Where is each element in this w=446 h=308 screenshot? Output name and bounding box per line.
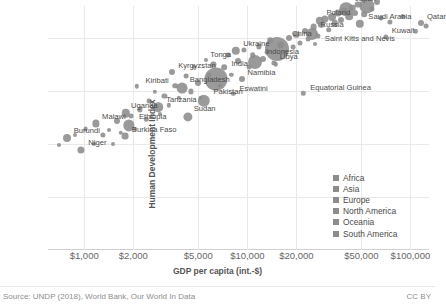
legend: AfricaAsiaEuropeNorth AmericaOceaniaSout… — [333, 172, 397, 239]
legend-swatch-icon — [333, 208, 339, 214]
data-point-label: Kiribati — [146, 76, 169, 85]
x-tick-label: $1,000 — [70, 250, 99, 261]
data-point-unlabeled[interactable] — [183, 74, 188, 79]
data-point-label: Namibia — [248, 67, 276, 76]
data-point-label: Malawi — [102, 111, 126, 120]
data-point[interactable] — [169, 69, 175, 75]
data-point-label: Kyrgyzstan — [178, 60, 216, 69]
x-tick-label: $20,000 — [279, 250, 313, 261]
legend-label: South America — [343, 229, 397, 239]
legend-label: Europe — [343, 195, 370, 205]
data-point-label: Pakistan — [213, 86, 242, 95]
data-point-label: Equatorial Guinea — [310, 83, 371, 92]
data-point[interactable] — [418, 20, 424, 26]
data-point-label: Tanzania — [166, 94, 196, 103]
data-point-unlabeled[interactable] — [167, 103, 171, 107]
data-point[interactable] — [177, 83, 188, 94]
legend-item[interactable]: South America — [333, 228, 397, 239]
data-point[interactable] — [135, 84, 139, 88]
x-tick-label: $10,000 — [230, 250, 264, 261]
data-point-unlabeled[interactable] — [241, 47, 246, 52]
legend-item[interactable]: Oceania — [333, 217, 397, 228]
source-note: Source: UNDP (2018), World Bank, Our Wor… — [3, 292, 195, 301]
data-point[interactable] — [313, 42, 317, 46]
legend-swatch-icon — [333, 197, 339, 203]
data-point-label: Bangladesh — [190, 74, 230, 83]
data-point-unlabeled[interactable] — [229, 73, 233, 77]
legend-item[interactable]: Asia — [333, 183, 397, 194]
data-point-label: Saint Kitts and Nevis — [325, 33, 395, 42]
data-point-label: Poland — [327, 8, 351, 17]
legend-label: Africa — [343, 173, 364, 183]
data-point[interactable] — [239, 76, 245, 82]
data-point[interactable] — [63, 134, 71, 142]
data-point-label: Kuwait — [392, 26, 415, 35]
data-point-label: India — [231, 59, 247, 68]
data-point-label: Burkina Faso — [132, 124, 177, 133]
data-point-label: Burundi — [74, 125, 100, 134]
license-note: CC BY — [407, 292, 431, 301]
data-point-unlabeled[interactable] — [297, 41, 302, 46]
data-point-label: Uganda — [131, 100, 158, 109]
data-point[interactable] — [356, 20, 364, 28]
data-point-label: China — [292, 28, 312, 37]
legend-label: Asia — [343, 184, 359, 194]
data-point-label: Russia — [320, 19, 343, 28]
data-point-label: Saudi Arabia — [368, 11, 411, 20]
legend-item[interactable]: Europe — [333, 194, 397, 205]
data-point[interactable] — [183, 112, 192, 121]
data-point-label: Tonga — [210, 49, 231, 58]
data-point-unlabeled[interactable] — [100, 132, 105, 137]
data-point-unlabeled[interactable] — [111, 142, 115, 146]
legend-swatch-icon — [333, 219, 339, 225]
data-point-label: Ethiopia — [139, 111, 166, 120]
data-point-unlabeled[interactable] — [107, 128, 111, 132]
x-axis-title: GDP per capita (int.-$) — [0, 266, 435, 276]
data-point-label: Japan — [355, 0, 376, 3]
legend-label: North America — [343, 206, 396, 216]
legend-item[interactable]: North America — [333, 206, 397, 217]
legend-label: Oceania — [343, 217, 374, 227]
data-point-unlabeled[interactable] — [352, 10, 358, 16]
data-point[interactable] — [122, 133, 129, 140]
data-point-unlabeled[interactable] — [424, 23, 429, 28]
x-tick-label: $2,000 — [119, 250, 148, 261]
x-tick-label: $100,000 — [391, 250, 431, 261]
data-point-label: Sudan — [194, 104, 216, 113]
legend-swatch-icon — [333, 231, 339, 237]
legend-swatch-icon — [333, 186, 339, 192]
data-point-label: Libya — [280, 52, 298, 61]
data-point[interactable] — [232, 47, 240, 55]
chart-footer: Source: UNDP (2018), World Bank, Our Wor… — [0, 286, 435, 308]
gridline-vertical — [198, 6, 199, 250]
x-tick-label: $50,000 — [344, 250, 378, 261]
data-point-label: Ukraine — [243, 38, 269, 47]
data-point-label: Qatar — [427, 11, 446, 20]
data-point-unlabeled[interactable] — [129, 114, 134, 119]
data-point-unlabeled[interactable] — [387, 19, 392, 24]
data-point-unlabeled[interactable] — [57, 143, 61, 147]
data-point-label: Eswatini — [240, 83, 268, 92]
data-point-label: Niger — [88, 138, 106, 147]
legend-swatch-icon — [333, 175, 339, 181]
data-point[interactable] — [301, 91, 305, 95]
legend-item[interactable]: Africa — [333, 172, 397, 183]
data-point-unlabeled[interactable] — [152, 90, 156, 94]
x-tick-label: $5,000 — [184, 250, 213, 261]
gridline-vertical — [410, 6, 411, 250]
